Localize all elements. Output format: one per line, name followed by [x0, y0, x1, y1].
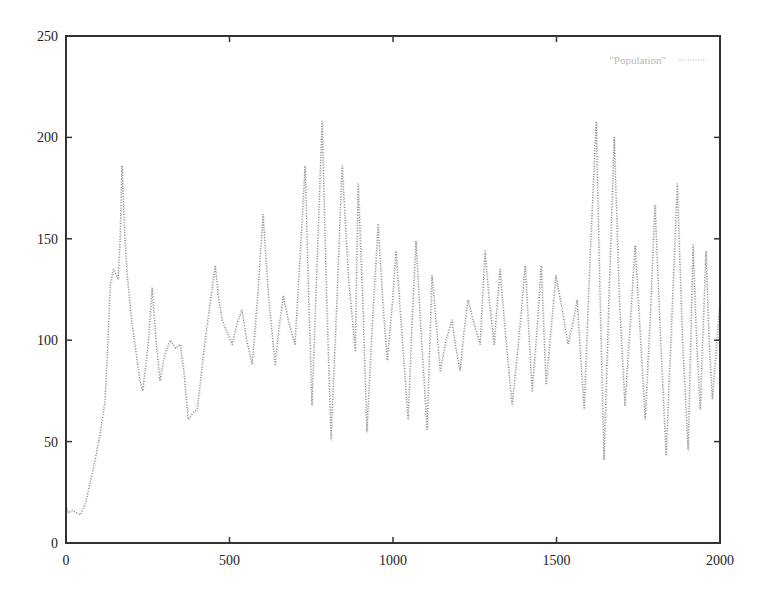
- y-tick-label: 100: [37, 333, 58, 348]
- plot-frame: [66, 36, 720, 543]
- y-tick-label: 150: [37, 232, 58, 247]
- legend-label: "Population": [609, 54, 666, 66]
- series-line-shadow: [67, 122, 721, 515]
- y-axis: 050100150200250: [37, 29, 720, 551]
- legend: "Population": [609, 54, 706, 66]
- x-tick-label: 1500: [543, 553, 571, 568]
- y-tick-label: 200: [37, 130, 58, 145]
- series-line: [66, 121, 720, 514]
- x-tick-label: 2000: [706, 553, 734, 568]
- population-chart: 0500100015002000 050100150200250 "Popula…: [0, 0, 769, 604]
- x-axis: 0500100015002000: [63, 36, 735, 568]
- y-tick-label: 250: [37, 29, 58, 44]
- x-tick-label: 1000: [379, 553, 407, 568]
- y-tick-label: 50: [44, 435, 58, 450]
- x-tick-label: 500: [219, 553, 240, 568]
- x-tick-label: 0: [63, 553, 70, 568]
- y-tick-label: 0: [51, 536, 58, 551]
- population-series: [66, 121, 721, 515]
